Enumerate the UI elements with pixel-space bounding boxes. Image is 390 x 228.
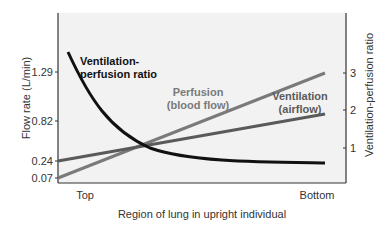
ventilation-label-line1: Ventilation [272,90,328,102]
y2-tick-label: 3 [350,67,356,79]
x-tick-label-top: Top [76,189,94,201]
perfusion-label-line2: (blood flow) [167,99,230,111]
vq-label-line2: perfusion ratio [80,68,157,80]
y2-tick-label: 2 [350,104,356,116]
vq-label-line1: Ventilation- [80,55,140,67]
y-tick-label: 0.24 [32,155,53,167]
y-tick-label: 0.07 [32,172,53,184]
perfusion-label-line1: Perfusion [173,86,224,98]
y2-axis-title: Ventilation-perfusion ratio [363,33,375,157]
x-axis-title: Region of lung in upright individual [118,208,286,220]
y-tick-label: 0.82 [32,115,53,127]
x-tick-label-bottom: Bottom [300,189,335,201]
y2-tick-label: 1 [350,142,356,154]
chart: 1.29 0.82 0.24 0.07 3 2 1 Flow rate (L/m… [0,0,390,228]
left-ticks: 1.29 0.82 0.24 0.07 [32,66,58,184]
y-axis-title: Flow rate (L/min) [20,57,32,140]
ventilation-label-line2: (airflow) [279,103,322,115]
y-tick-label: 1.29 [32,66,53,78]
